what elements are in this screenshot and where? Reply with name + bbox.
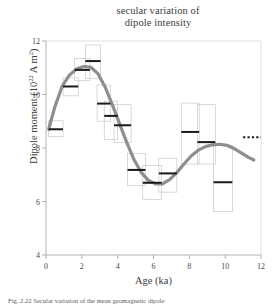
- figure-caption: Fig. 2.22 Secular variation of the mean …: [8, 297, 270, 308]
- y-axis-label: Dipole moment (1022 A m2): [27, 11, 40, 201]
- y-axis-label-paren: ): [28, 49, 39, 53]
- y-axis-label-exponent: 22: [27, 75, 34, 82]
- y-axis-label-text: Dipole moment (10: [28, 82, 39, 164]
- uncertainty-box: [214, 145, 233, 211]
- y-axis-label-units-exponent: 2: [27, 52, 34, 55]
- uncertainty-box: [104, 101, 117, 139]
- uncertainty-box: [197, 105, 215, 164]
- dipole-moment-curve: [49, 66, 254, 183]
- x-axis-ticks: 0 2 4 6 8 10 12: [44, 255, 265, 271]
- x-tick-label-8: 8: [187, 262, 191, 271]
- dipole-moment-curve-path: [49, 66, 254, 183]
- x-axis-label: Age (ka): [46, 275, 261, 286]
- y-axis-label-units: A m: [28, 55, 39, 75]
- figure-container: secular variation of dipole intensity 12…: [0, 0, 275, 308]
- uncertainty-box: [114, 105, 131, 143]
- plot-area: 12 10 8 6 4 0 2 4 6 8 10 12: [0, 0, 275, 308]
- x-tick-label-12: 12: [257, 262, 265, 271]
- axis-frame: [46, 41, 261, 255]
- x-tick-label-6: 6: [152, 262, 156, 271]
- x-tick-label-2: 2: [80, 262, 84, 271]
- x-tick-label-4: 4: [116, 262, 120, 271]
- median-bars: [49, 61, 233, 183]
- y-tick-label-4: 4: [36, 251, 40, 260]
- x-tick-label-10: 10: [221, 262, 229, 271]
- x-tick-label-0: 0: [44, 262, 48, 271]
